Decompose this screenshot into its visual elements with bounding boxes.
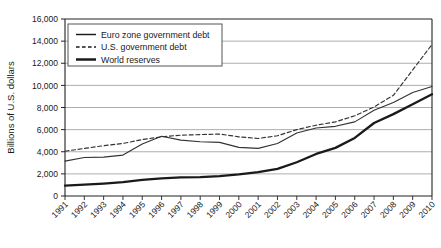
legend-label-1: U.S. government debt: [101, 42, 187, 52]
x-axis-tick-label: 1999: [204, 199, 225, 220]
x-axis-tick-label: 2003: [281, 199, 302, 220]
legend-label-2: World reserves: [101, 55, 161, 65]
x-axis-tick-label: 2008: [378, 199, 399, 220]
x-axis-tick-label: 2007: [359, 199, 380, 220]
y-axis-tick-label: 8,000: [37, 103, 59, 113]
y-axis-tick-label: 2,000: [37, 169, 59, 179]
x-axis-tick-label: 2001: [243, 199, 264, 220]
legend-label-0: Euro zone government debt: [101, 30, 210, 40]
x-axis-tick-label: 1994: [107, 199, 128, 220]
y-axis-tick-label: 0: [53, 191, 58, 201]
y-axis-tick-label: 4,000: [37, 147, 59, 157]
y-axis-tick-label: 16,000: [32, 14, 58, 24]
x-axis-tick-label: 2002: [262, 199, 283, 220]
x-axis-tick-label: 2009: [397, 199, 418, 220]
x-axis-tick-label: 1998: [185, 199, 206, 220]
series-line-2: [65, 94, 432, 185]
x-axis-tick-label: 1995: [127, 199, 148, 220]
line-chart: 16,00014,00012,00010,0008,0006,0004,0002…: [0, 0, 441, 248]
x-axis-tick-label: 2006: [339, 199, 360, 220]
x-axis-tick-label: 1991: [49, 199, 70, 220]
x-axis-tick-label: 1992: [69, 199, 90, 220]
chart-container: 16,00014,00012,00010,0008,0006,0004,0002…: [0, 0, 441, 248]
y-axis-title: Billions of U.S. dollars: [5, 61, 16, 154]
x-axis-tick-label: 2010: [416, 199, 437, 220]
x-axis-tick-label: 2004: [301, 199, 322, 220]
y-axis-tick-label: 14,000: [32, 36, 58, 46]
x-axis-tick-label: 1997: [165, 199, 186, 220]
y-axis-tick-label: 6,000: [37, 125, 59, 135]
series-line-0: [65, 86, 432, 161]
y-axis-tick-label: 10,000: [32, 81, 58, 91]
x-axis-tick-label: 2000: [223, 199, 244, 220]
y-axis-tick-label: 12,000: [32, 58, 58, 68]
x-axis-tick-label: 1996: [146, 199, 167, 220]
x-axis-tick-label: 2005: [320, 199, 341, 220]
x-axis-tick-label: 1993: [88, 199, 109, 220]
